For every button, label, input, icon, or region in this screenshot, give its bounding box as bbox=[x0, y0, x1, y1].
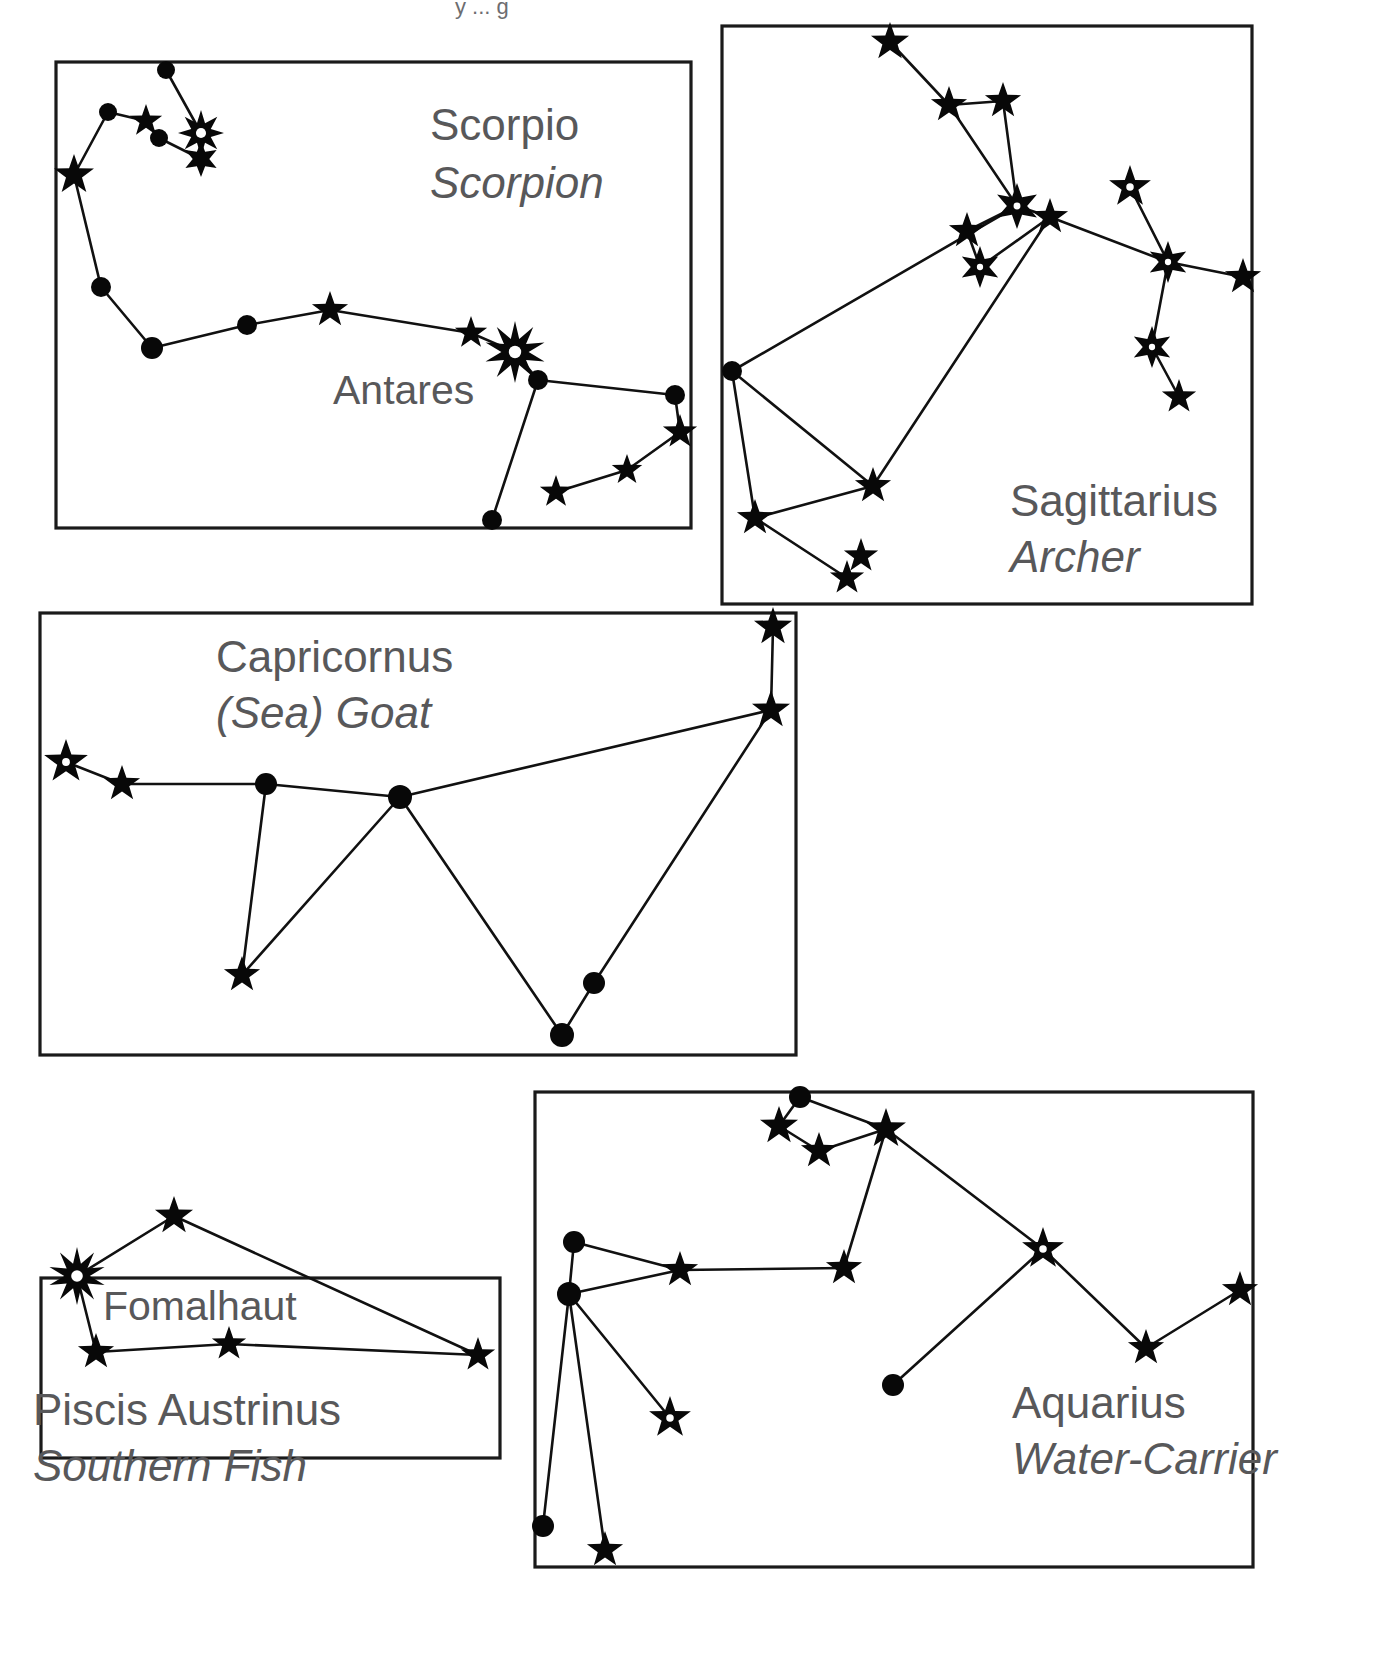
constellation-common-name-capricornus: (Sea) Goat bbox=[216, 688, 433, 737]
constellation-line bbox=[1146, 1290, 1240, 1348]
star-center-hole bbox=[666, 1414, 673, 1421]
constellation-canvas: ScorpioScorpionAntaresSagittariusArcherC… bbox=[0, 0, 1376, 1669]
panel-aquarius bbox=[532, 1086, 1258, 1567]
constellation-line bbox=[886, 1129, 1043, 1249]
star-center-hole bbox=[196, 128, 206, 138]
constellation-line bbox=[627, 432, 680, 470]
star-icon bbox=[855, 467, 891, 501]
star-icon bbox=[587, 1531, 623, 1565]
labels-sagittarius: SagittariusArcher bbox=[1007, 476, 1218, 581]
star-dot-icon bbox=[665, 385, 685, 405]
cropped-title-fragment: y ... g bbox=[455, 0, 509, 19]
star-icon bbox=[1225, 258, 1261, 292]
star-icon bbox=[830, 560, 864, 593]
constellation-line bbox=[400, 797, 562, 1035]
star-center-hole bbox=[71, 1270, 83, 1282]
constellation-line bbox=[266, 784, 400, 797]
star-icon bbox=[844, 538, 878, 571]
labels-aquarius: AquariusWater-Carrier bbox=[1012, 1378, 1279, 1483]
constellation-line bbox=[1050, 217, 1168, 262]
constellation-line bbox=[543, 1294, 569, 1526]
labels-scorpio: ScorpioScorpionAntares bbox=[333, 100, 604, 413]
star-icon bbox=[54, 154, 94, 192]
constellation-line bbox=[101, 287, 152, 348]
star-center-hole bbox=[977, 264, 983, 270]
star-markers-scorpio bbox=[54, 61, 697, 530]
constellation-line bbox=[74, 112, 108, 175]
star-icon bbox=[461, 1337, 495, 1370]
star-icon bbox=[801, 1132, 837, 1166]
star-dot-icon bbox=[532, 1515, 554, 1537]
constellation-line bbox=[844, 1129, 886, 1268]
constellation-common-name-scorpio: Scorpion bbox=[430, 158, 604, 207]
star-dot-icon bbox=[482, 510, 502, 530]
constellation-line bbox=[873, 217, 1050, 486]
constellation-line bbox=[569, 1270, 680, 1294]
constellation-common-name-piscis-austrinus: Southern Fish bbox=[33, 1441, 307, 1490]
constellation-line bbox=[680, 1268, 844, 1270]
star-dot-icon bbox=[91, 277, 111, 297]
constellation-common-name-aquarius: Water-Carrier bbox=[1012, 1434, 1279, 1483]
constellation-line bbox=[1043, 1249, 1146, 1348]
star-icon bbox=[78, 1333, 114, 1367]
star-dot-icon bbox=[882, 1374, 904, 1396]
star-center-hole bbox=[1039, 1245, 1046, 1252]
constellation-name-capricornus: Capricornus bbox=[216, 632, 453, 681]
star-name-label: Antares bbox=[333, 367, 474, 413]
star-name-label: Fomalhaut bbox=[103, 1283, 297, 1329]
panel-border-aquarius bbox=[535, 1092, 1253, 1567]
star-icon bbox=[540, 475, 572, 506]
star-dot-icon bbox=[99, 103, 117, 121]
panel-border-scorpio bbox=[56, 62, 691, 528]
constellation-line bbox=[152, 325, 247, 348]
constellation-line bbox=[574, 1242, 680, 1270]
star-dot-icon bbox=[157, 61, 175, 79]
constellation-name-scorpio: Scorpio bbox=[430, 100, 579, 149]
star-icon bbox=[760, 1106, 798, 1142]
star-icon bbox=[612, 454, 642, 483]
constellation-line bbox=[732, 371, 873, 486]
constellation-line bbox=[74, 175, 101, 287]
star-dot-icon bbox=[255, 773, 277, 795]
constellation-line bbox=[732, 371, 755, 518]
star-markers-aquarius bbox=[532, 1086, 1258, 1565]
star-center-hole bbox=[1014, 203, 1021, 210]
star-dot-icon bbox=[150, 129, 168, 147]
star-dot-icon bbox=[722, 361, 742, 381]
star-dot-icon bbox=[583, 972, 605, 994]
constellation-line bbox=[229, 1344, 478, 1355]
constellation-line bbox=[893, 1249, 1043, 1385]
star-icon bbox=[737, 499, 773, 533]
star-dot-icon bbox=[550, 1023, 574, 1047]
star-icon bbox=[826, 1249, 862, 1283]
star-icon bbox=[104, 765, 140, 799]
star-icon bbox=[455, 316, 487, 347]
star-icon bbox=[155, 1196, 193, 1232]
labels-piscis-austrinus: Piscis AustrinusSouthern FishFomalhaut bbox=[33, 1283, 341, 1490]
constellation-name-aquarius: Aquarius bbox=[1012, 1378, 1186, 1427]
star-center-hole bbox=[509, 346, 521, 358]
star-icon bbox=[212, 1326, 246, 1359]
star-icon bbox=[312, 291, 348, 325]
star-center-hole bbox=[62, 758, 70, 766]
star-icon bbox=[662, 1251, 698, 1285]
star-dot-icon bbox=[528, 370, 548, 390]
constellation-figure: ScorpioScorpionAntaresSagittariusArcherC… bbox=[0, 0, 1376, 1669]
star-dot-icon bbox=[563, 1231, 585, 1253]
star-center-hole bbox=[1126, 183, 1133, 190]
star-center-hole bbox=[1149, 344, 1155, 350]
constellation-line bbox=[242, 797, 400, 975]
constellation-line bbox=[538, 380, 675, 395]
star-dot-icon bbox=[388, 785, 412, 809]
constellation-line bbox=[594, 710, 771, 983]
star-icon bbox=[985, 82, 1021, 116]
star-dot-icon bbox=[789, 1086, 811, 1108]
constellation-line bbox=[330, 310, 471, 333]
panel-scorpio bbox=[54, 61, 697, 530]
star-dot-icon bbox=[557, 1282, 581, 1306]
star-center-hole bbox=[1165, 259, 1171, 265]
constellation-name-piscis-austrinus: Piscis Austrinus bbox=[33, 1385, 341, 1434]
star-icon bbox=[752, 690, 790, 726]
labels-capricornus: Capricornus(Sea) Goat bbox=[216, 632, 453, 737]
constellation-line bbox=[755, 486, 873, 518]
